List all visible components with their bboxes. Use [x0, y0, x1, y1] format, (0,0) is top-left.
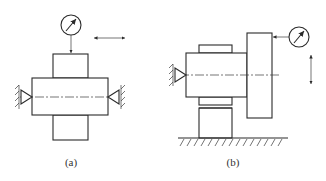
caption-b: (b)	[227, 156, 240, 169]
collar-top	[53, 54, 88, 78]
diagram-canvas: (a)	[0, 0, 326, 181]
key	[199, 45, 232, 53]
ground-icon	[178, 138, 288, 146]
shaft	[32, 78, 108, 115]
left-center-icon	[15, 85, 32, 109]
panel-b: (b)	[169, 27, 311, 169]
left-center-icon	[169, 64, 186, 86]
collar-bottom	[53, 115, 88, 140]
disc-face	[247, 33, 272, 118]
caption-a: (a)	[65, 156, 78, 169]
support-block	[199, 108, 232, 138]
dial-indicator-icon	[273, 27, 309, 47]
support-band	[199, 97, 232, 105]
right-center-icon	[108, 85, 125, 109]
panel-a: (a)	[15, 15, 125, 169]
dial-indicator-icon	[61, 15, 81, 53]
